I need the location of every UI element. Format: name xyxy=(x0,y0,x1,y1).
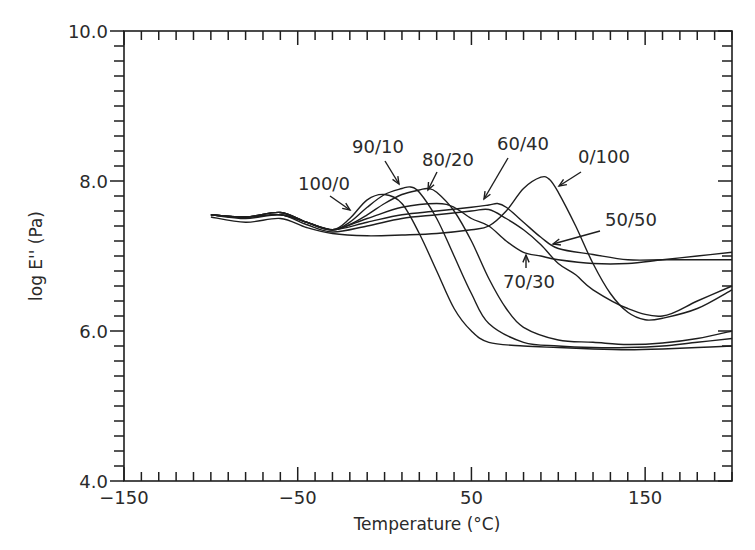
y-tick-label: 4.0 xyxy=(79,471,108,492)
annotations: 100/090/1080/2060/400/10050/5070/30 xyxy=(298,133,657,292)
plot-frame xyxy=(124,31,732,481)
x-axis-label: Temperature (°C) xyxy=(353,514,501,534)
arrow xyxy=(559,172,581,186)
x-tick-label: −50 xyxy=(279,487,317,508)
y-tick-label: 10.0 xyxy=(68,21,108,42)
arrowhead-icon xyxy=(393,176,399,184)
data-curves xyxy=(211,177,732,350)
y-tick-label: 8.0 xyxy=(79,171,108,192)
tick-labels: −150−50501504.06.08.010.0 xyxy=(68,21,662,508)
annotation-50-50: 50/50 xyxy=(605,209,657,230)
y-tick-label: 6.0 xyxy=(79,321,108,342)
x-tick-label: 150 xyxy=(628,487,662,508)
curve-0-100 xyxy=(211,177,732,321)
annotation-60-40: 60/40 xyxy=(497,133,549,154)
annotation-70-30: 70/30 xyxy=(503,271,555,292)
annotation-100-0: 100/0 xyxy=(298,173,350,194)
chart: 100/090/1080/2060/400/10050/5070/30 −150… xyxy=(0,0,755,550)
arrow xyxy=(330,196,350,210)
arrow xyxy=(428,172,437,190)
y-axis-label: log E'' (Pa) xyxy=(26,211,46,301)
axis-ticks xyxy=(110,31,732,481)
arrow xyxy=(553,231,600,244)
annotation-80-20: 80/20 xyxy=(422,149,474,170)
annotation-0-100: 0/100 xyxy=(578,146,630,167)
arrow xyxy=(385,161,399,184)
arrow xyxy=(484,158,508,199)
annotation-90-10: 90/10 xyxy=(352,136,404,157)
x-tick-label: 50 xyxy=(460,487,483,508)
